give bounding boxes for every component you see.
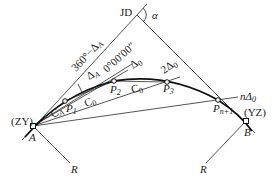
svg-text:nΔ0: nΔ0 — [240, 90, 256, 104]
delta0-label: Δ0 — [127, 54, 144, 72]
point-b-yz — [244, 119, 249, 124]
chord-c0-2 — [114, 81, 167, 82]
curve-layout-diagram: JD α (ZY) A (YZ) B R R P1 P2 P3 Pn+1 360… — [0, 0, 272, 185]
delta-a-label: ΔA — [84, 65, 101, 83]
alpha-label: α — [152, 9, 158, 21]
delta-a-marker — [78, 84, 82, 92]
diagram-canvas: JD α (ZY) A (YZ) B R R P1 P2 P3 Pn+1 360… — [0, 0, 272, 185]
r-right-label: R — [199, 163, 207, 175]
svg-text:P2: P2 — [109, 83, 121, 97]
svg-text:CA: CA — [48, 103, 65, 121]
b-label: B — [244, 126, 251, 138]
svg-text:2Δ0: 2Δ0 — [158, 56, 180, 77]
p1-label: P1 — [65, 102, 77, 116]
svg-text:C0: C0 — [82, 93, 98, 110]
radius-line-b — [206, 121, 246, 163]
svg-text:P3: P3 — [162, 82, 174, 96]
jd-label: JD — [120, 6, 132, 18]
radius-line-a — [33, 126, 70, 163]
n-delta0-label: nΔ0 — [240, 90, 256, 104]
c0-a-label: C0 — [82, 93, 98, 110]
r-left-label: R — [70, 163, 78, 175]
ca-label: CA — [48, 103, 65, 121]
p3-label: P3 — [162, 82, 174, 96]
two-delta0-label: 2Δ0 — [158, 56, 180, 77]
p2-label: P2 — [109, 83, 121, 97]
zy-label: (ZY) — [11, 115, 33, 128]
svg-text:Δ0: Δ0 — [127, 54, 144, 72]
a-label: A — [28, 131, 36, 143]
svg-text:P1: P1 — [65, 102, 77, 116]
yz-label: (YZ) — [244, 106, 266, 119]
alpha-arc — [143, 8, 146, 22]
svg-text:C0: C0 — [130, 81, 144, 97]
svg-text:ΔA: ΔA — [84, 65, 101, 83]
c0-b-label: C0 — [130, 81, 144, 97]
